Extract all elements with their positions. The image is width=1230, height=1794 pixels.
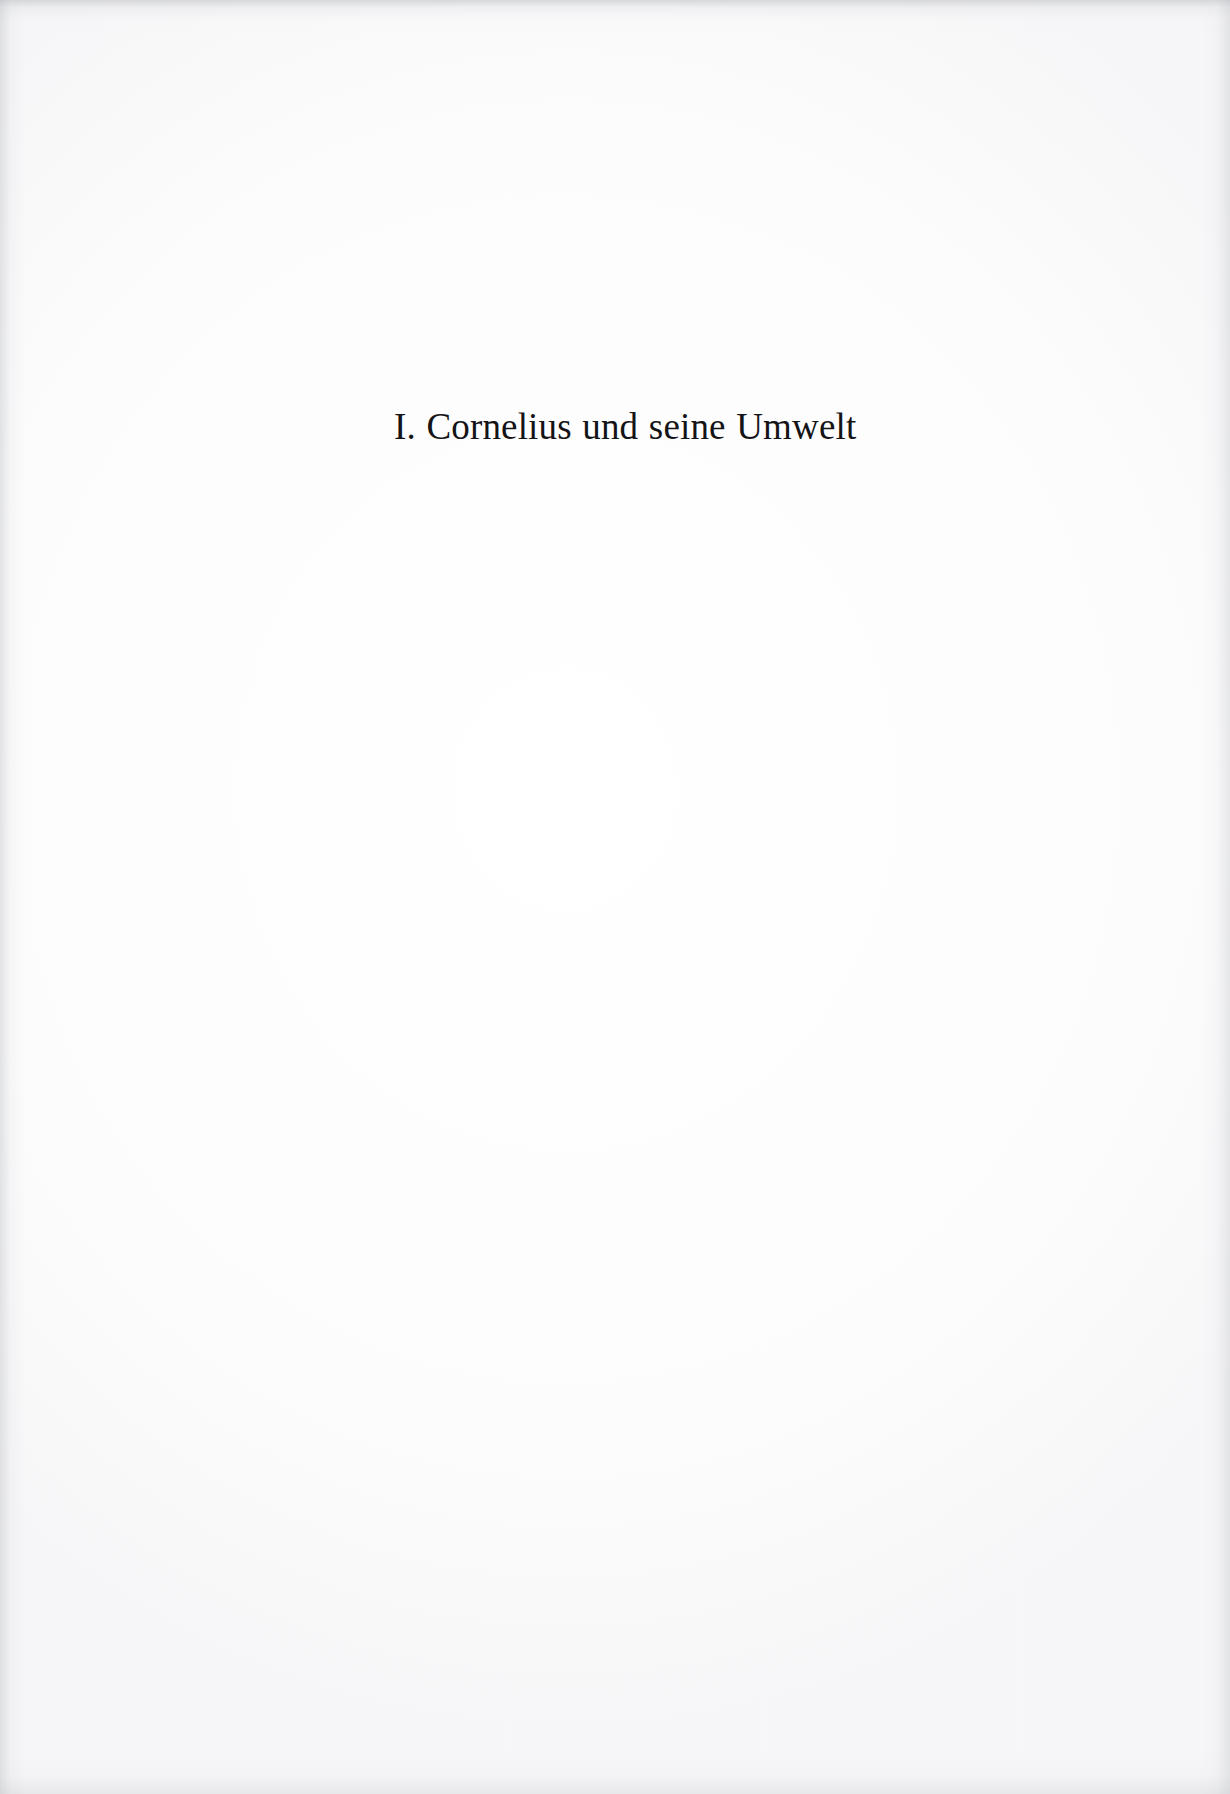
section-heading: I. Cornelius und seine Umwelt (0, 404, 856, 450)
section-heading-block: I. Cornelius und seine Umwelt (0, 404, 1230, 450)
scan-edge-shadow-top (0, 0, 1230, 34)
scan-edge-shadow-bottom (0, 1752, 1230, 1794)
scanned-page: I. Cornelius und seine Umwelt (0, 0, 1230, 1794)
scan-edge-shadow-left (0, 0, 26, 1794)
paper-tone-overlay (0, 0, 1230, 1794)
scan-edge-shadow-right (1200, 0, 1230, 1794)
